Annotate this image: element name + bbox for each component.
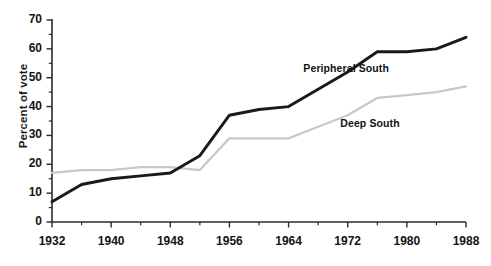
chart-container: Percent of vote 010203040506070 19321940…	[0, 0, 491, 266]
series-line-deep-south	[52, 86, 466, 173]
y-axis-tick-label: 30	[16, 127, 42, 141]
y-axis-tick-label: 60	[16, 41, 42, 55]
x-axis-tick-label: 1932	[30, 234, 74, 248]
y-axis-tick-label: 20	[16, 156, 42, 170]
x-axis-tick-label: 1980	[385, 234, 429, 248]
series-label-peripheral-south: Peripheral South	[303, 62, 389, 74]
data-series	[52, 37, 466, 201]
axes	[47, 19, 467, 228]
x-axis-tick-label: 1940	[89, 234, 133, 248]
x-axis-tick-label: 1964	[267, 234, 311, 248]
series-line-peripheral-south	[52, 37, 466, 201]
y-axis-tick-label: 40	[16, 99, 42, 113]
x-axis-tick-label: 1988	[444, 234, 488, 248]
y-axis-tick-label: 10	[16, 185, 42, 199]
y-axis-tick-label: 0	[16, 214, 42, 228]
plot-area	[0, 0, 491, 266]
x-axis-tick-label: 1948	[148, 234, 192, 248]
y-axis-tick-label: 70	[16, 12, 42, 26]
y-axis-tick-label: 50	[16, 70, 42, 84]
x-axis-tick-label: 1972	[326, 234, 370, 248]
series-label-deep-south: Deep South	[340, 117, 399, 129]
x-axis-tick-label: 1956	[207, 234, 251, 248]
